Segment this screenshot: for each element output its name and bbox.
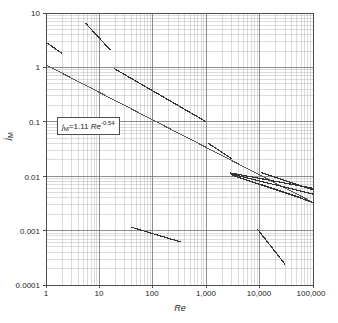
x-tick-label-10: 10 [95, 289, 104, 298]
y-tick-label-10: 10 [2, 9, 40, 18]
chart-grid-and-lines [0, 0, 338, 323]
chart-figure: 10 1 0.1 0.01 0.001 0.0001 1 10 100 1,00… [0, 0, 338, 323]
y-axis-title: jM [2, 132, 14, 140]
y-tick-label-0.0001: 0.0001 [0, 281, 40, 290]
equation-annotation-box: jM=1.11 Re-0.54 [57, 117, 120, 135]
x-tick-label-100: 100 [145, 289, 158, 298]
y-tick-label-1: 1 [2, 63, 40, 72]
x-axis-title: Re [174, 303, 186, 313]
equation-re-term: Re [91, 122, 101, 131]
x-tick-label-1000: 1,000 [196, 289, 216, 298]
y-tick-label-0.1: 0.1 [2, 118, 40, 127]
equation-operator: =1.11 [69, 122, 91, 131]
x-tick-label-10000: 10,000 [247, 289, 271, 298]
x-tick-label-100000: 100,000 [297, 289, 326, 298]
y-tick-label-0.01: 0.01 [2, 173, 40, 182]
y-tick-label-0.001: 0.001 [2, 227, 40, 236]
equation-exponent: -0.54 [101, 120, 115, 126]
y-axis-title-var: j [2, 138, 12, 140]
y-axis-title-subscript: M [7, 132, 14, 138]
x-tick-label-1: 1 [44, 289, 48, 298]
